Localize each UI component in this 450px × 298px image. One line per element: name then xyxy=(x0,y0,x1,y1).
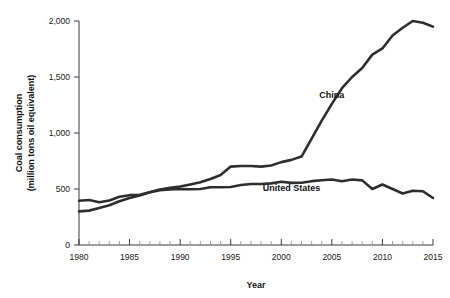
series-label-china: China xyxy=(319,90,345,100)
y-tick-label: 0 xyxy=(65,240,70,250)
series-label-united-states: United States xyxy=(263,183,321,193)
x-axis-minor-ticks xyxy=(89,241,423,245)
y-axis-title-line1: Coal consumption xyxy=(14,94,24,173)
y-tick-label: 1,500 xyxy=(49,72,71,82)
x-axis-tick-labels: 19801985199019952000200520102015 xyxy=(70,252,443,262)
y-tick-label: 500 xyxy=(56,184,70,194)
data-series-group xyxy=(79,21,433,211)
x-tick-label: 1995 xyxy=(221,252,240,262)
x-axis-major-ticks xyxy=(79,239,433,245)
x-axis-title: Year xyxy=(246,280,266,290)
x-tick-label: 2000 xyxy=(272,252,291,262)
series-annotation-labels: ChinaUnited States xyxy=(263,90,346,193)
chart-canvas: 05001,0001,5002,000 19801985199019952000… xyxy=(0,0,450,298)
coal-consumption-line-chart: 05001,0001,5002,000 19801985199019952000… xyxy=(0,0,450,298)
x-tick-label: 1980 xyxy=(70,252,89,262)
series-line-united-states xyxy=(79,179,433,202)
x-tick-label: 2010 xyxy=(373,252,392,262)
y-axis-title-line2: (million tons oil equivalent) xyxy=(26,75,36,192)
y-tick-label: 1,000 xyxy=(49,128,71,138)
axes-group xyxy=(79,21,433,245)
y-axis-tick-labels: 05001,0001,5002,000 xyxy=(49,16,71,250)
y-tick-label: 2,000 xyxy=(49,16,71,26)
x-tick-label: 1985 xyxy=(120,252,139,262)
x-tick-label: 2015 xyxy=(424,252,443,262)
x-tick-label: 2005 xyxy=(322,252,341,262)
x-tick-label: 1990 xyxy=(171,252,190,262)
